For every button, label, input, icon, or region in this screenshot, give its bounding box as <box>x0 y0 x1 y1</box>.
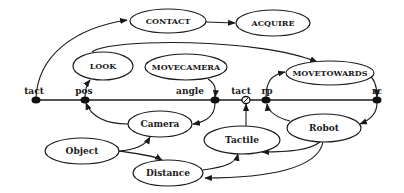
port-rc-label: rc <box>372 86 383 96</box>
node-distance-label: Distance <box>146 168 190 178</box>
node-look-label: LOOK <box>90 61 118 71</box>
node-distance[interactable]: Distance <box>133 160 203 186</box>
node-look[interactable]: LOOK <box>73 52 133 80</box>
port-pos-label: pos <box>75 86 92 96</box>
port-rc[interactable]: rc <box>372 86 383 104</box>
port-angle-label: angle <box>176 86 204 96</box>
node-object[interactable]: Object <box>45 138 119 164</box>
node-movecamera-label: MOVECAMERA <box>152 62 221 72</box>
node-acquire-label: ACQUIRE <box>250 18 294 28</box>
edge-object-to-distance <box>119 151 162 160</box>
node-tactile-label: Tactile <box>225 135 259 145</box>
node-object-label: Object <box>66 146 100 156</box>
node-movetowards[interactable]: MOVETOWARDS <box>286 61 374 85</box>
node-contact[interactable]: CONTACT <box>130 9 206 33</box>
port-pos[interactable]: pos <box>75 86 92 104</box>
edge-camera-to-pos <box>86 103 128 124</box>
port-tact-left-label: tact <box>24 86 44 96</box>
node-contact-label: CONTACT <box>146 16 191 26</box>
port-rp[interactable]: rp <box>261 86 272 104</box>
edge-robot-to-rp <box>267 104 290 121</box>
node-movecamera[interactable]: MOVECAMERA <box>145 54 227 80</box>
edge-contact-to-acquire <box>206 22 235 23</box>
port-tact-right[interactable]: tact <box>231 86 251 104</box>
port-angle[interactable]: angle <box>176 86 219 104</box>
behavior-network-diagram: CONTACT ACQUIRE LOOK MOVECAMERA MOVETOWA… <box>0 0 404 193</box>
node-camera-label: Camera <box>141 119 180 129</box>
edge-distance-to-tactile <box>203 154 238 170</box>
edge-movecamera-to-angle <box>208 79 215 97</box>
node-camera[interactable]: Camera <box>128 111 192 137</box>
node-tactile[interactable]: Tactile <box>204 126 280 154</box>
node-robot[interactable]: Robot <box>287 114 361 142</box>
port-tact-left[interactable]: tact <box>24 86 44 104</box>
node-acquire[interactable]: ACQUIRE <box>236 10 310 36</box>
node-movetowards-label: MOVETOWARDS <box>293 68 368 78</box>
port-tact-right-label: tact <box>231 86 251 96</box>
edge-object-to-camera <box>119 137 150 151</box>
port-rp-label: rp <box>261 86 272 96</box>
node-robot-label: Robot <box>309 123 340 133</box>
edge-angle-to-camera <box>193 103 215 124</box>
edge-rc-to-robot <box>360 103 377 124</box>
